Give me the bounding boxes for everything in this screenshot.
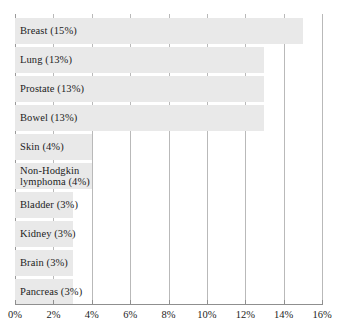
x-tick (169, 300, 170, 305)
bar-row: Skin (4%) (15, 134, 322, 160)
x-axis-label: 2% (46, 308, 60, 322)
bar-label-line: Pancreas (3%) (20, 286, 82, 298)
bar-label-line: Kidney (3%) (20, 228, 76, 240)
bar-label: Lung (13%) (20, 47, 72, 73)
bar-row: Breast (15%) (15, 18, 322, 44)
bar-label-line: Breast (15%) (20, 25, 77, 37)
bar-label: Brain (3%) (20, 250, 68, 276)
bar-label-line: Non-Hodgkin (20, 165, 90, 177)
bar-label: Kidney (3%) (20, 221, 76, 247)
bar-row: Prostate (13%) (15, 76, 322, 102)
x-tick (53, 300, 54, 305)
bar-label-line: Prostate (13%) (20, 83, 84, 95)
x-tick (92, 300, 93, 305)
x-axis-label: 0% (8, 308, 22, 322)
cancer-incidence-bar-chart: Breast (15%)Lung (13%)Prostate (13%)Bowe… (0, 0, 341, 336)
x-axis-tick-labels: 0%2%4%6%8%10%12%14%16% (0, 308, 341, 328)
bar-label-line: Skin (4%) (20, 141, 64, 153)
x-tick (284, 300, 285, 305)
bar-label: Pancreas (3%) (20, 279, 82, 305)
bar-label-line: Brain (3%) (20, 257, 68, 269)
x-tick (130, 300, 131, 305)
x-tick (207, 300, 208, 305)
x-axis-label: 10% (197, 308, 216, 322)
bar-label: Bowel (13%) (20, 105, 77, 131)
bar-label: Skin (4%) (20, 134, 64, 160)
x-axis-label: 14% (274, 308, 293, 322)
x-axis-label: 16% (312, 308, 331, 322)
bar-label-line: Bowel (13%) (20, 112, 77, 124)
bar-row: Lung (13%) (15, 47, 322, 73)
bars-layer: Breast (15%)Lung (13%)Prostate (13%)Bowe… (15, 14, 322, 305)
bar-row: Brain (3%) (15, 250, 322, 276)
bar-label: Bladder (3%) (20, 192, 78, 218)
bar-label-line: Lung (13%) (20, 54, 72, 66)
bar-label: Breast (15%) (20, 18, 77, 44)
x-axis-label: 6% (123, 308, 137, 322)
bar-label: Prostate (13%) (20, 76, 84, 102)
bar-label-line: Bladder (3%) (20, 199, 78, 211)
bar-row: Non-Hodgkinlymphoma (4%) (15, 163, 322, 189)
x-tick (15, 300, 16, 305)
bar-label-line: lymphoma (4%) (20, 176, 90, 188)
gridline-16pct (322, 14, 323, 305)
x-axis-label: 4% (85, 308, 99, 322)
x-axis-label: 8% (162, 308, 176, 322)
x-tick (245, 300, 246, 305)
x-axis-label: 12% (236, 308, 255, 322)
bar-label: Non-Hodgkinlymphoma (4%) (20, 163, 90, 189)
bar-row: Bladder (3%) (15, 192, 322, 218)
plot-area: Breast (15%)Lung (13%)Prostate (13%)Bowe… (15, 14, 322, 305)
x-tick (322, 300, 323, 305)
bar-row: Kidney (3%) (15, 221, 322, 247)
bar-row: Bowel (13%) (15, 105, 322, 131)
